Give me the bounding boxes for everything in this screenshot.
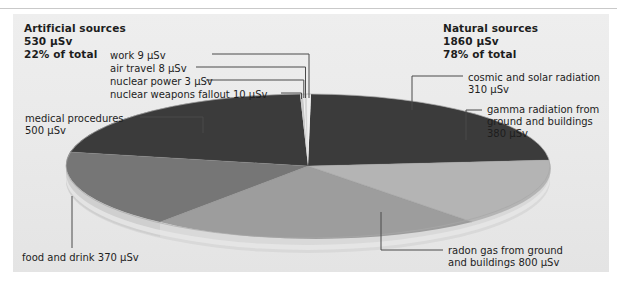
label-medical-procedures-line2: 500 µSv (25, 125, 124, 137)
artificial-sources-dose: 530 µSv (24, 35, 126, 48)
label-medical-procedures: medical procedures 500 µSv (25, 113, 124, 137)
label-gamma-line1: gamma radiation from (487, 104, 609, 116)
label-gamma-radiation: gamma radiation from ground and building… (487, 104, 609, 141)
label-radon-gas: radon gas from ground and buildings 800 … (448, 245, 608, 269)
label-medical-procedures-line1: medical procedures (25, 113, 124, 125)
label-gamma-line2: ground and buildings (487, 116, 609, 128)
label-gamma-line3: 380 µSv (487, 128, 609, 140)
label-cosmic-and-solar-radiation: cosmic and solar radiation 310 µSv (468, 72, 600, 96)
label-nuclear-weapons-fallout: nuclear weapons fallout 10 µSv (110, 89, 267, 101)
natural-sources-share: 78% of total (443, 48, 538, 61)
radiation-sources-figure: Artificial sources 530 µSv 22% of total … (0, 0, 617, 284)
label-radon-line2: and buildings 800 µSv (448, 257, 608, 269)
label-work: work 9 µSv (110, 50, 166, 62)
natural-sources-title: Natural sources (443, 22, 538, 35)
label-cosmic-line2: 310 µSv (468, 84, 600, 96)
natural-sources-header: Natural sources 1860 µSv 78% of total (443, 22, 538, 60)
label-nuclear-power: nuclear power 3 µSv (110, 76, 213, 88)
label-food-and-drink: food and drink 370 µSv (22, 252, 139, 264)
label-radon-line1: radon gas from ground (448, 245, 608, 257)
artificial-sources-title: Artificial sources (24, 22, 126, 35)
natural-sources-dose: 1860 µSv (443, 35, 538, 48)
label-air-travel: air travel 8 µSv (110, 63, 187, 75)
label-cosmic-line1: cosmic and solar radiation (468, 72, 600, 84)
